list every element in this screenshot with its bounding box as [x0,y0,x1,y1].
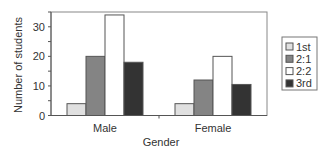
x-axis-label: Gender [143,136,180,148]
bar-female-3rd [232,84,251,115]
bar-female-2-1 [194,80,213,115]
y-tick-label: 30 [33,21,45,33]
legend: 1st2:12:23rd [282,37,317,90]
bar-male-2-2 [105,15,124,116]
chart-canvas: 0102030 MaleFemale Number of students Ge… [0,0,333,156]
y-tick-label: 0 [39,110,45,122]
x-tick-label-female: Female [195,122,232,134]
y-axis-label: Number of students [12,17,24,113]
legend-swatch-icon [286,68,293,75]
x-axis: MaleFemale [51,116,267,134]
x-tick-label-male: Male [93,122,117,134]
legend-swatch-icon [286,55,293,62]
bar-male-1st [67,104,86,116]
legend-label: 2:2 [296,65,311,77]
legend-label: 3rd [296,77,312,89]
legend-swatch-icon [286,43,293,50]
bar-chart: 0102030 MaleFemale Number of students Ge… [0,0,333,156]
bar-male-2-1 [86,56,105,115]
bar-female-2-2 [213,56,232,115]
bar-male-3rd [124,62,143,115]
bars-group [67,15,251,116]
legend-label: 2:1 [296,53,311,65]
y-tick-label: 10 [33,80,45,92]
bar-female-1st [175,104,194,116]
y-tick-label: 20 [33,50,45,62]
legend-label: 1st [296,41,311,53]
y-axis: 0102030 [33,12,51,122]
legend-swatch-icon [286,80,293,87]
